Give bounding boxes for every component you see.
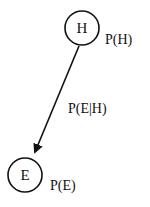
node-h-label: H (77, 20, 88, 36)
bayes-diagram: H P(H) P(E|H) E P(E) (0, 0, 150, 207)
node-e: E (8, 158, 42, 192)
node-h-probability: P(H) (105, 32, 133, 48)
node-e-probability: P(E) (50, 178, 76, 194)
node-h: H (65, 11, 99, 45)
node-e-label: E (20, 167, 29, 183)
edge-h-to-e (35, 46, 79, 152)
edge-h-to-e-label: P(E|H) (68, 101, 107, 117)
